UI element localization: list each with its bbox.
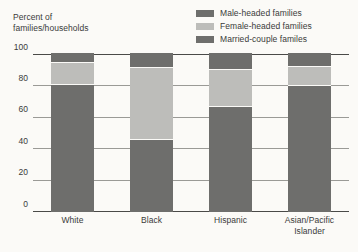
legend-item: Female-headed families: [196, 21, 312, 33]
bar-segment[interactable]: [51, 85, 94, 212]
legend-swatch-icon: [196, 23, 214, 30]
bar-segment[interactable]: [209, 53, 252, 70]
bar-segment[interactable]: [209, 107, 252, 212]
y-axis-tick-label: 60: [19, 105, 28, 114]
stacked-bar[interactable]: [130, 53, 173, 212]
bar-group: [112, 55, 191, 212]
y-axis-tick-label: 100: [14, 42, 28, 51]
bar-segment[interactable]: [51, 63, 94, 84]
legend-item: Male-headed families: [196, 8, 312, 20]
legend-item-label: Male-headed families: [220, 9, 302, 18]
bar-group: [191, 55, 270, 212]
bar-segment[interactable]: [130, 53, 173, 68]
x-axis-category-label: White: [33, 215, 112, 226]
stacked-bar-chart: Percent of families/households Male-head…: [0, 0, 358, 252]
x-axis-category-label: Black: [112, 215, 191, 226]
y-axis-tick-label: 80: [19, 74, 28, 83]
bar-segment[interactable]: [209, 70, 252, 107]
y-axis-tick-label: 40: [19, 136, 28, 145]
y-axis-tick-label: 0: [23, 199, 28, 208]
legend-item-label: Married-couple familes: [220, 35, 307, 44]
legend-item-label: Female-headed families: [220, 22, 312, 31]
bar-segment[interactable]: [51, 53, 94, 63]
y-axis-title: Percent of families/households: [13, 12, 89, 33]
x-axis-category-label: Asian/Pacific Islander: [270, 215, 349, 236]
stacked-bar[interactable]: [288, 53, 331, 212]
bar-segment[interactable]: [130, 68, 173, 140]
stacked-bar[interactable]: [51, 53, 94, 212]
plot-area: 020406080100 WhiteBlackHispanicAsian/Pac…: [33, 55, 349, 212]
bar-series-container: WhiteBlackHispanicAsian/Pacific Islander: [33, 55, 349, 212]
legend-swatch-icon: [196, 36, 214, 43]
bar-group: [270, 55, 349, 212]
bar-segment[interactable]: [288, 53, 331, 67]
y-axis-tick-label: 20: [19, 168, 28, 177]
bar-segment[interactable]: [130, 140, 173, 212]
y-axis-title-line2: families/households: [13, 23, 89, 34]
legend-swatch-icon: [196, 10, 214, 17]
bar-segment[interactable]: [288, 86, 331, 212]
stacked-bar[interactable]: [209, 53, 252, 212]
bar-group: [33, 55, 112, 212]
legend-item: Married-couple familes: [196, 34, 312, 46]
y-axis-title-line1: Percent of: [13, 12, 89, 23]
x-axis-category-label: Hispanic: [191, 215, 270, 226]
bar-segment[interactable]: [288, 67, 331, 87]
chart-legend: Male-headed familiesFemale-headed famili…: [196, 8, 312, 47]
